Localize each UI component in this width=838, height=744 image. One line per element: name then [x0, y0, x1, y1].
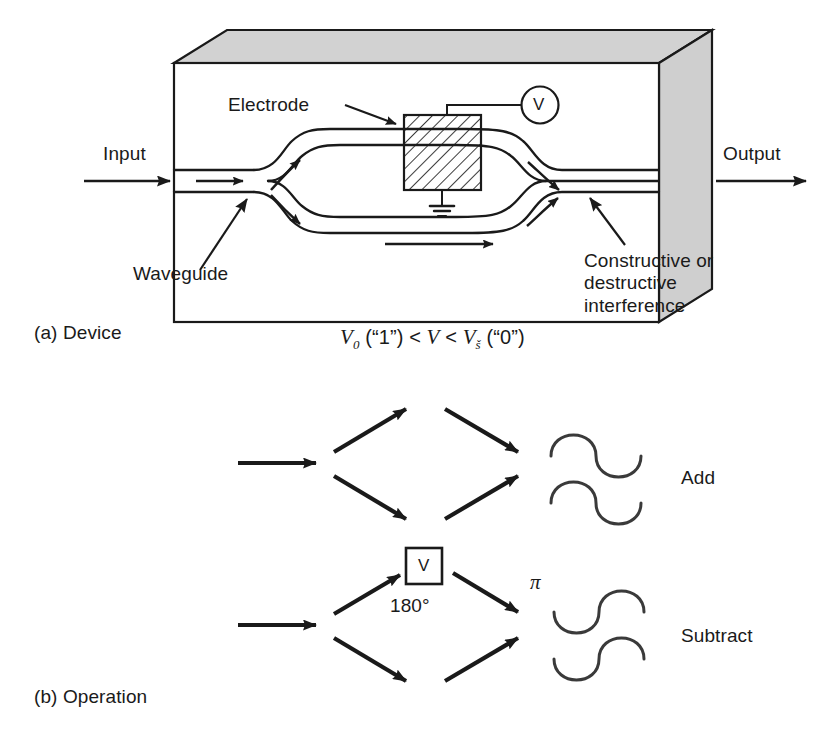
- formula-state-one: (“1”): [365, 326, 403, 348]
- formula-v0-sub: 0: [353, 337, 360, 352]
- add-waveforms: [551, 435, 641, 524]
- add-waveform-upper: [551, 435, 641, 477]
- output-label: Output: [723, 143, 781, 165]
- phase-degrees-label: 180°: [390, 595, 430, 617]
- subtract-waveforms: [554, 591, 644, 680]
- formula-lt-1: <: [409, 326, 421, 348]
- sub-merge-upper-arrow: [453, 573, 518, 612]
- add-split-down-arrow: [334, 476, 406, 519]
- operation-add-group: [238, 409, 518, 519]
- add-label: Add: [681, 467, 715, 489]
- figure-root: Input Output Electrode Waveguide Constru…: [0, 0, 838, 744]
- add-split-up-arrow: [334, 409, 406, 452]
- formula-vpi: V: [463, 325, 476, 349]
- operation-subtract-group: [238, 573, 518, 681]
- bias-formula: V0 (“1”) < V < Vš (“0”): [340, 325, 525, 353]
- add-waveform-lower: [551, 482, 641, 524]
- formula-v: V: [427, 325, 440, 349]
- subtract-label: Subtract: [681, 625, 753, 647]
- waveguide-label: Waveguide: [133, 263, 228, 285]
- device-caption: (a) Device: [34, 322, 122, 344]
- formula-state-zero: (“0”): [486, 326, 524, 348]
- formula-lt-2: <: [445, 326, 457, 348]
- phase-box-label: V: [418, 556, 429, 576]
- electrode-label: Electrode: [228, 94, 309, 116]
- formula-vpi-sub: š: [476, 337, 481, 352]
- formula-v0: V: [340, 325, 353, 349]
- add-merge-upper-arrow: [445, 409, 518, 452]
- add-merge-lower-arrow: [445, 476, 518, 519]
- electrode-rect: [404, 115, 481, 190]
- operation-caption: (b) Operation: [34, 686, 147, 708]
- sub-split-down-arrow: [334, 638, 406, 681]
- voltmeter-label: V: [533, 95, 544, 115]
- sub-merge-lower-arrow: [445, 638, 518, 681]
- substrate-top-face: [174, 30, 712, 63]
- subtract-waveform-lower: [554, 638, 644, 680]
- subtract-waveform-upper: [554, 591, 644, 633]
- phase-pi-label: π: [530, 570, 541, 594]
- interference-label: Constructive or destructive interference: [584, 250, 729, 317]
- input-label: Input: [103, 143, 146, 165]
